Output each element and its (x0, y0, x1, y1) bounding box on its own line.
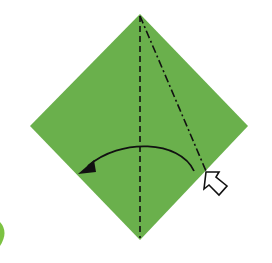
paper-diamond (30, 14, 248, 240)
edge-sliver (0, 222, 5, 246)
push-arrow-icon (204, 172, 227, 195)
